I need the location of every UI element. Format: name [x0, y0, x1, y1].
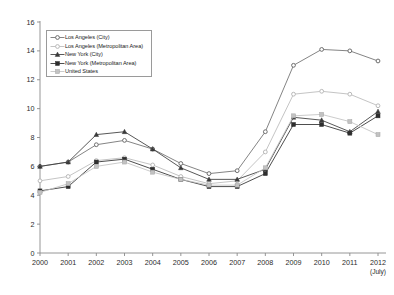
- data-point-marker: [207, 172, 211, 176]
- data-point-marker: [292, 63, 296, 67]
- data-point-marker: [66, 182, 70, 186]
- legend-label: Los Angeles (City): [65, 33, 110, 42]
- y-tick-label: 6: [31, 162, 35, 171]
- data-point-marker: [38, 179, 42, 183]
- x-tick-label: 2007: [229, 258, 245, 267]
- data-point-marker: [94, 143, 98, 147]
- data-point-marker: [179, 162, 183, 166]
- data-point-marker: [56, 36, 60, 40]
- data-point-marker: [292, 123, 296, 127]
- data-point-marker: [207, 183, 211, 187]
- data-point-marker: [376, 133, 380, 137]
- data-point-marker: [292, 92, 296, 96]
- data-point-marker: [376, 104, 380, 108]
- y-tick-label: 8: [31, 133, 35, 142]
- data-point-marker: [263, 172, 267, 176]
- data-point-marker: [348, 131, 352, 135]
- data-point-marker: [263, 150, 267, 154]
- data-point-marker: [38, 190, 42, 194]
- data-point-marker: [123, 160, 127, 164]
- data-point-marker: [151, 170, 155, 174]
- legend-item-5: United States: [50, 67, 148, 76]
- y-tick-label: 2: [31, 220, 35, 229]
- legend-label: New York (Metropolitan Area): [65, 59, 136, 68]
- data-point-marker: [320, 112, 324, 116]
- data-point-marker: [94, 164, 98, 168]
- x-tick-label: 2005: [173, 258, 189, 267]
- data-point-marker: [56, 44, 60, 48]
- data-point-marker: [348, 49, 352, 53]
- x-tick-label: 2012: [370, 258, 386, 267]
- x-tick-label: 2008: [257, 258, 273, 267]
- y-tick-label: 14: [27, 46, 35, 55]
- x-tick-label: 2009: [286, 258, 302, 267]
- unemployment-line-chart: 0246810121416200020012002200320042005200…: [0, 0, 394, 295]
- data-point-marker: [263, 130, 267, 134]
- y-tick-label: 16: [27, 18, 35, 27]
- legend-marker-icon: [50, 67, 65, 76]
- legend-label: Los Angeles (Metropolitan Area): [65, 42, 143, 51]
- data-point-marker: [348, 120, 352, 124]
- x-tick-label: 2010: [314, 258, 330, 267]
- legend-marker-icon: [50, 42, 65, 51]
- x-tick-label: 2011: [342, 258, 357, 267]
- legend-item-3: New York (City): [50, 50, 148, 59]
- y-tick-label: 4: [31, 191, 35, 200]
- data-point-marker: [235, 169, 239, 173]
- legend-item-2: Los Angeles (Metropolitan Area): [50, 42, 148, 51]
- legend-item-1: Los Angeles (City): [50, 33, 148, 42]
- data-point-marker: [376, 59, 380, 63]
- data-point-marker: [179, 177, 183, 181]
- y-tick-label: 10: [27, 104, 35, 113]
- legend-item-4: New York (Metropolitan Area): [50, 59, 148, 68]
- data-point-marker: [376, 114, 380, 118]
- data-point-marker: [235, 183, 239, 187]
- legend-marker-icon: [50, 59, 65, 68]
- chart-legend: Los Angeles (City)Los Angeles (Metropoli…: [46, 30, 152, 77]
- legend-label: New York (City): [65, 50, 103, 59]
- x-tick-label: 2004: [145, 258, 161, 267]
- series-line: [40, 112, 378, 180]
- y-tick-label: 12: [27, 75, 35, 84]
- x-tick-label: 2001: [60, 258, 76, 267]
- data-point-marker: [292, 114, 296, 118]
- data-point-marker: [320, 123, 324, 127]
- data-point-marker: [320, 48, 324, 52]
- x-axis-note: (July): [370, 268, 386, 276]
- x-tick-label: 2002: [88, 258, 104, 267]
- data-point-marker: [66, 175, 70, 179]
- data-point-marker: [123, 138, 127, 142]
- data-point-marker: [56, 70, 60, 74]
- data-point-marker: [94, 160, 98, 164]
- legend-marker-icon: [50, 50, 65, 59]
- data-point-marker: [263, 166, 267, 170]
- series-2: [38, 89, 380, 185]
- data-point-marker: [151, 163, 155, 167]
- data-point-marker: [376, 109, 381, 113]
- data-point-marker: [348, 92, 352, 96]
- legend-label: United States: [65, 67, 98, 76]
- legend-marker-icon: [50, 33, 65, 42]
- x-tick-label: 2000: [32, 258, 48, 267]
- y-tick-label: 0: [31, 249, 35, 258]
- data-point-marker: [179, 165, 184, 169]
- data-point-marker: [56, 61, 60, 65]
- x-tick-label: 2003: [117, 258, 133, 267]
- x-tick-label: 2006: [201, 258, 217, 267]
- data-point-marker: [320, 89, 324, 93]
